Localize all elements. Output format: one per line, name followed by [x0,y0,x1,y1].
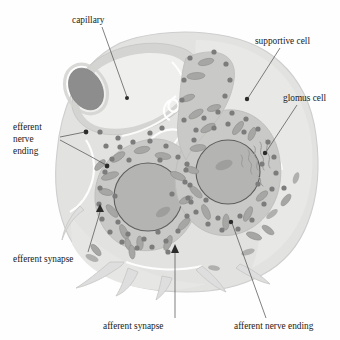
dense-core-vesicle [227,77,232,82]
dense-core-vesicle [222,93,227,98]
dense-core-vesicle [181,117,186,122]
diagram-canvas: capillary supportive cell glomus cell ef… [0,0,340,340]
dense-core-vesicle [175,154,180,159]
dense-core-vesicle [179,97,184,102]
dense-core-vesicle [115,219,120,224]
dense-core-vesicle [211,49,216,54]
dense-core-vesicle [223,61,228,66]
dense-core-vesicle [215,109,220,114]
dense-core-vesicle [165,249,170,254]
label-supportive-cell: supportive cell [255,36,310,46]
dense-core-vesicle [107,229,112,234]
dense-core-vesicle [184,161,189,166]
dense-core-vesicle [235,226,240,231]
dense-core-vesicle [255,126,260,131]
dense-core-vesicle [159,125,164,130]
dense-core-vesicle [271,154,276,159]
label-efferent-nerve-ending-line3: ending [13,146,39,156]
dense-core-vesicle [119,239,124,244]
dense-core-vesicle [225,121,230,126]
label-efferent-nerve-ending-line2: nerve [13,134,34,144]
dense-core-vesicle [184,213,189,218]
dense-core-vesicle [219,227,224,232]
dense-core-vesicle [125,231,130,236]
dense-core-vesicle [187,182,192,187]
dense-core-vesicle [243,116,248,121]
dense-core-vesicle [237,213,242,218]
label-efferent-nerve-ending-line1: efferent [13,122,42,132]
dense-core-vesicle [193,209,198,214]
dense-core-vesicle [163,238,168,243]
dense-core-vesicle [215,215,220,220]
label-glomus-cell: glomus cell [283,93,327,103]
dense-core-vesicle [130,139,135,144]
dense-core-vesicle [269,186,274,191]
dense-core-vesicle [117,144,122,149]
dense-core-vesicle [102,169,107,174]
dense-core-vesicle [163,143,168,148]
label-capillary: capillary [72,15,105,25]
dense-core-vesicle [181,77,186,82]
dense-core-vesicle [241,129,246,134]
dense-core-vesicle [126,157,131,162]
dense-core-vesicle [97,185,102,190]
dense-core-vesicle [187,55,192,60]
dense-core-vesicle [259,161,264,166]
dense-core-vesicle [109,156,114,161]
dense-core-vesicle [203,197,208,202]
dense-core-vesicle [99,216,104,221]
label-afferent-synapse: afferent synapse [103,321,164,331]
dense-core-vesicle [103,143,108,148]
dense-core-vesicle [191,137,196,142]
dense-core-vesicle [147,130,152,135]
dense-core-vesicle [157,157,162,162]
dense-core-vesicle [155,229,160,234]
label-afferent-nerve-ending: afferent nerve ending [234,321,314,331]
dense-core-vesicle [182,179,187,184]
diagram-figure: capillary supportive cell glomus cell ef… [0,0,340,340]
dense-core-vesicle [112,193,117,198]
dense-core-vesicle [249,217,254,222]
dense-core-vesicle [261,201,266,206]
dense-core-vesicle [115,135,120,140]
dense-core-vesicle [211,125,216,130]
dense-core-vesicle [193,127,198,132]
dense-core-vesicle [201,115,206,120]
dense-core-vesicle [229,110,234,115]
dense-core-vesicle [134,245,139,250]
dense-core-vesicle [255,181,260,186]
label-efferent-synapse: efferent synapse [13,254,74,264]
dense-core-vesicle [169,191,174,196]
dense-core-vesicle [141,236,146,241]
dense-core-vesicle [281,185,286,190]
dense-core-vesicle [185,195,190,200]
dense-core-vesicle [97,129,102,134]
dense-core-vesicle [147,138,152,143]
dense-core-vesicle [175,228,180,233]
dense-core-vesicle [273,170,278,175]
dense-core-vesicle [265,139,270,144]
dense-core-vesicle [183,167,188,172]
dense-core-vesicle [205,221,210,226]
dense-core-vesicle [149,244,154,249]
